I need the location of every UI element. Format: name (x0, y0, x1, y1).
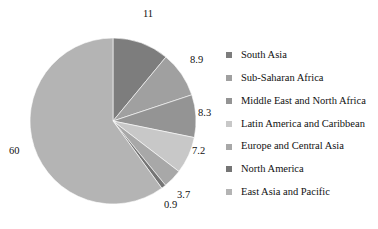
pie-value-label: 3.7 (177, 190, 190, 201)
pie-value-label: 8.3 (198, 108, 211, 119)
legend-item[interactable]: Sub-Saharan Africa (226, 67, 378, 90)
pie-chart: 118.98.37.23.70.960 South AsiaSub-Sahara… (0, 0, 378, 229)
legend-item[interactable]: South Asia (226, 44, 378, 67)
legend-item-label: Europe and Central Asia (241, 141, 344, 152)
legend-item[interactable]: North America (226, 158, 378, 181)
legend-item[interactable]: Europe and Central Asia (226, 135, 378, 158)
legend-item-label: Sub-Saharan Africa (241, 73, 324, 84)
legend-item-label: South Asia (241, 50, 287, 61)
legend-swatch-icon (226, 98, 232, 104)
legend-item[interactable]: Middle East and North Africa (226, 90, 378, 113)
legend-item[interactable]: Latin America and Caribbean (226, 112, 378, 135)
pie-value-label: 0.9 (164, 200, 177, 211)
legend-swatch-icon (226, 166, 232, 172)
legend-item-label: Middle East and North Africa (241, 96, 366, 107)
legend-item-label: East Asia and Pacific (241, 187, 330, 198)
pie-value-label: 11 (143, 9, 153, 20)
legend-item[interactable]: East Asia and Pacific (226, 181, 378, 204)
legend-swatch-icon (226, 189, 232, 195)
pie-slice-group (30, 38, 196, 204)
pie-value-label: 60 (9, 146, 20, 157)
legend-swatch-icon (226, 121, 232, 127)
legend-swatch-icon (226, 52, 232, 58)
legend-item-label: North America (241, 164, 304, 175)
chart-legend: South AsiaSub-Saharan AfricaMiddle East … (226, 44, 378, 204)
pie-value-label: 7.2 (192, 146, 205, 157)
legend-item-label: Latin America and Caribbean (241, 119, 365, 130)
pie-value-label: 8.9 (190, 55, 203, 66)
legend-swatch-icon (226, 144, 232, 150)
legend-swatch-icon (226, 75, 232, 81)
